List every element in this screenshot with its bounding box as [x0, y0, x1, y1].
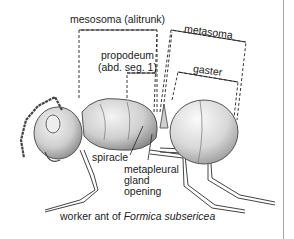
gaster-shape: [170, 100, 238, 164]
legs: [45, 148, 275, 213]
label-spiracle: spiracle: [92, 152, 128, 163]
diagram-canvas: mesosoma (alitrunk) propodeum (abd. seg.…: [0, 0, 294, 239]
label-propodeum: propodeum: [101, 50, 154, 61]
mesosoma-shape: [82, 99, 157, 151]
caption-species: Formica subsericea: [124, 210, 216, 222]
propodeum-bracket: [127, 73, 157, 98]
label-mesosoma: mesosoma (alitrunk): [70, 14, 165, 25]
figure-caption: worker ant of Formica subsericea: [60, 210, 215, 222]
label-opening: opening: [124, 186, 161, 197]
caption-prefix: worker ant of: [60, 210, 124, 222]
head-shape: [34, 107, 82, 159]
eye-shape: [46, 115, 60, 133]
ant-illustration: [0, 0, 294, 239]
page-edge-line: [283, 0, 284, 239]
petiole-shape: [160, 104, 168, 128]
label-propodeum-sub: (abd. seg. 1): [98, 62, 157, 73]
